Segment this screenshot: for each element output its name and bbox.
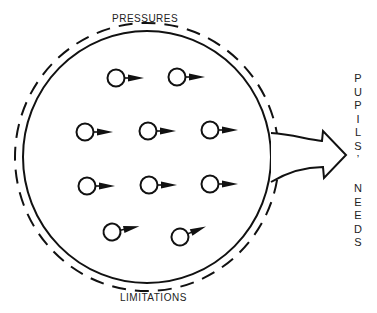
pupil bbox=[102, 218, 141, 242]
pupil-circle bbox=[77, 124, 94, 141]
pupil-circle bbox=[202, 122, 219, 139]
pupil-circle bbox=[140, 123, 157, 140]
output-arrow bbox=[271, 131, 346, 182]
pupil-circle bbox=[169, 226, 191, 248]
pupils-letter: S bbox=[354, 140, 361, 152]
pupil bbox=[202, 122, 239, 139]
pupil-arrow-icon bbox=[160, 128, 176, 135]
pupil bbox=[169, 219, 209, 248]
pressures-limitations-boundary bbox=[15, 23, 279, 291]
pupil bbox=[108, 70, 145, 87]
pupil-circle bbox=[102, 222, 122, 242]
pupil-circle bbox=[141, 177, 158, 194]
pupil bbox=[140, 123, 177, 140]
pupil-circle bbox=[202, 176, 219, 193]
needs-letter: D bbox=[354, 223, 362, 235]
pupil-arrow-icon bbox=[189, 74, 205, 81]
needs-label: NEEDS bbox=[354, 182, 362, 248]
pupil-circle bbox=[108, 70, 125, 87]
needs-letter: E bbox=[354, 196, 361, 208]
pupil bbox=[79, 178, 116, 195]
pupil bbox=[141, 177, 178, 194]
pupils-letter: P bbox=[354, 72, 361, 84]
pupil-arrow-icon bbox=[161, 182, 177, 189]
pupil-arrow-icon bbox=[123, 223, 140, 233]
needs-letter: S bbox=[354, 236, 361, 248]
pupils-letter: ’ bbox=[357, 153, 359, 165]
pressures-label: PRESSURES bbox=[112, 13, 178, 24]
pupil-arrow-icon bbox=[128, 75, 144, 82]
pupil-arrow-icon bbox=[222, 181, 238, 188]
pupil-circle bbox=[169, 69, 186, 86]
needs-letter: E bbox=[354, 209, 361, 221]
limitations-label: LIMITATIONS bbox=[120, 292, 187, 303]
pupil bbox=[77, 124, 114, 141]
pupil-arrow-icon bbox=[97, 129, 113, 136]
needs-letter: N bbox=[354, 182, 362, 194]
pupil-circle bbox=[79, 178, 96, 195]
pupil bbox=[202, 176, 239, 193]
pupils-group bbox=[77, 69, 239, 249]
pupil-arrow-icon bbox=[99, 183, 115, 190]
pupils-letter: P bbox=[354, 99, 361, 111]
pupils-label: PUPILS’ bbox=[354, 72, 362, 165]
pupils-letter: L bbox=[355, 126, 361, 138]
pupil-arrow-icon bbox=[222, 127, 238, 134]
pupils-needs-diagram: PRESSURES LIMITATIONS PUPILS’ NEEDS bbox=[0, 0, 377, 313]
classroom-circle bbox=[23, 31, 271, 283]
pupils-letter: I bbox=[356, 113, 359, 125]
pupil bbox=[169, 69, 206, 86]
pupils-letter: U bbox=[354, 86, 362, 98]
pupil-arrow-icon bbox=[190, 223, 207, 235]
